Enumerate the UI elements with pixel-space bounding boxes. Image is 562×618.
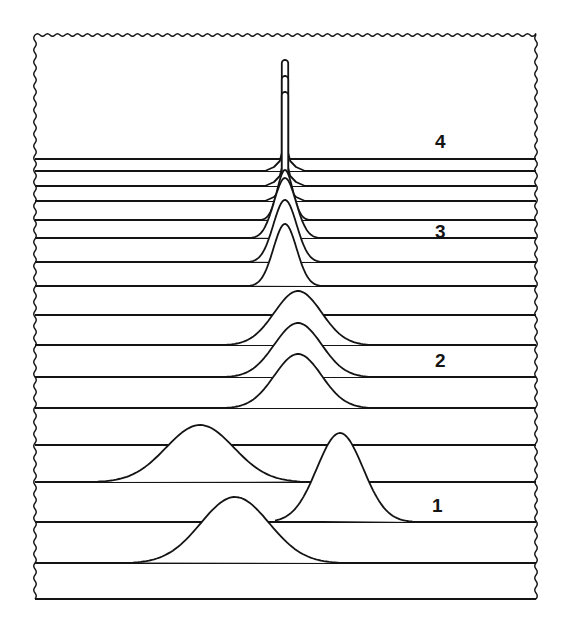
distribution-fill xyxy=(226,354,372,408)
group-label-3: 3 xyxy=(435,222,446,241)
frame-top-edge xyxy=(35,34,536,37)
group-label-4: 4 xyxy=(435,132,446,151)
frame-right-edge xyxy=(535,35,538,599)
distribution-fill xyxy=(90,425,300,482)
group-label-2: 2 xyxy=(435,351,446,370)
group-label-1: 1 xyxy=(432,496,443,515)
frame-left-edge xyxy=(34,35,37,599)
distribution-layers xyxy=(35,60,536,599)
stacked-distribution-diagram xyxy=(0,0,562,618)
